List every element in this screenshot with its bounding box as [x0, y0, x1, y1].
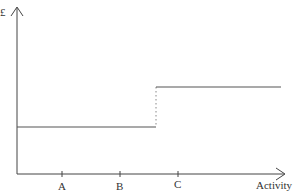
x-tick-label-a: A [58, 181, 66, 192]
x-tick-label-c: C [174, 179, 181, 190]
x-axis-label: Activity [256, 180, 292, 191]
y-axis-label: £ [0, 7, 6, 18]
x-tick-label-b: B [116, 181, 123, 192]
chart-canvas [0, 0, 294, 194]
